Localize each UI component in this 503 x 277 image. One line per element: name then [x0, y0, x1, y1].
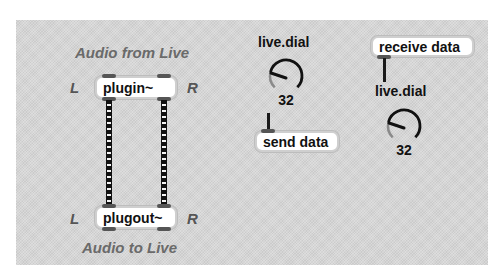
right-channel-label-top: R — [187, 80, 198, 95]
plugout-inlet-left[interactable] — [102, 204, 116, 208]
live-dial-send-label: live.dial — [258, 35, 309, 49]
plugout-object[interactable]: plugout~ — [95, 206, 177, 229]
send-data-inlet[interactable] — [261, 129, 275, 133]
right-channel-label-bottom: R — [187, 211, 198, 226]
live-dial-receive-label: live.dial — [375, 84, 426, 98]
live-dial-send-outlet[interactable] — [261, 108, 275, 112]
plugin-object-label: plugin~ — [103, 80, 153, 96]
comment-audio-from-live: Audio from Live — [75, 45, 189, 60]
data-cord-receive[interactable] — [383, 58, 386, 82]
comment-audio-to-live: Audio to Live — [82, 240, 177, 255]
data-cord-send[interactable] — [267, 113, 270, 129]
plugin-object[interactable]: plugin~ — [95, 76, 177, 99]
live-dial-receive[interactable] — [384, 106, 424, 146]
plugin-inlet-left[interactable] — [102, 74, 116, 78]
live-dial-receive-value: 32 — [389, 143, 419, 157]
plugin-inlet-right[interactable] — [157, 74, 171, 78]
plugout-object-label: plugout~ — [103, 210, 163, 226]
left-channel-label-bottom: L — [70, 211, 79, 226]
receive-data-object[interactable]: receive data — [371, 36, 474, 57]
receive-data-object-label: receive data — [379, 39, 460, 55]
send-data-object[interactable]: send data — [255, 131, 339, 152]
audio-cord-left[interactable] — [106, 100, 112, 205]
plugout-outlet-right[interactable] — [157, 227, 171, 231]
left-channel-label-top: L — [70, 80, 79, 95]
plugout-outlet-left[interactable] — [102, 227, 116, 231]
audio-cord-right[interactable] — [161, 100, 167, 205]
plugout-inlet-right[interactable] — [157, 204, 171, 208]
live-dial-send-value: 32 — [271, 93, 301, 107]
live-dial-send[interactable] — [266, 56, 306, 96]
send-data-object-label: send data — [263, 134, 328, 150]
